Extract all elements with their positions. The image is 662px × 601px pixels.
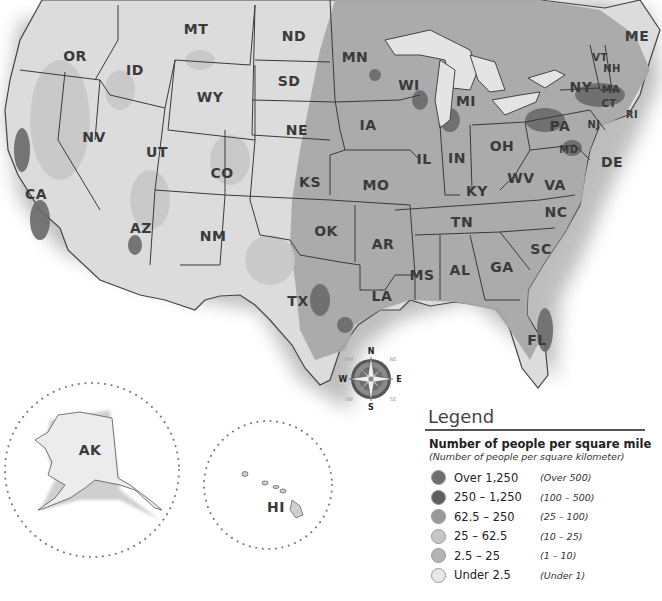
state-label-nh: NH [603, 63, 621, 74]
state-label-ct: CT [601, 98, 616, 109]
state-label-ga: GA [490, 259, 513, 275]
state-label-sc: SC [530, 241, 551, 257]
state-label-al: AL [450, 262, 471, 278]
state-label-md: MD [559, 144, 578, 155]
legend-item-label: Over 1,250 [454, 471, 540, 485]
legend-item: 2.5 – 25 (1 – 10) [431, 546, 657, 566]
compass-ne-label: NE [390, 356, 397, 362]
legend-items: Over 1,250 (Over 500) 250 – 1,250 (100 –… [425, 468, 657, 585]
legend-title: Legend [425, 402, 657, 429]
state-label-co: CO [210, 165, 233, 181]
state-label-pa: PA [550, 118, 571, 134]
state-label-ks: KS [299, 174, 321, 190]
state-label-hi: HI [267, 499, 285, 515]
compass-sw-label: SW [345, 396, 353, 402]
state-label-il: IL [416, 151, 431, 167]
state-label-mn: MN [342, 49, 369, 65]
legend-item-label: Under 2.5 [454, 568, 540, 582]
legend-item-metric: (10 – 25) [540, 531, 582, 542]
legend-subtitle-metric: (Number of people per square kilometer) [429, 451, 657, 462]
state-label-nj: NJ [587, 119, 600, 130]
state-label-in: IN [448, 150, 466, 166]
compass-west-label: W [339, 375, 348, 384]
state-label-oh: OH [490, 138, 515, 154]
compass-south-label: S [368, 403, 374, 412]
legend-swatch-62-250 [431, 509, 446, 524]
state-label-fl: FL [527, 332, 546, 348]
legend-item-label: 2.5 – 25 [454, 549, 540, 563]
state-label-nc: NC [545, 204, 568, 220]
legend-item-label: 62.5 – 250 [454, 510, 540, 524]
hawaii-inset-circle [204, 421, 332, 549]
state-label-sd: SD [278, 73, 301, 89]
legend-item: 250 – 1,250 (100 – 500) [431, 488, 657, 508]
state-label-wv: WV [507, 170, 534, 186]
legend-item: Under 2.5 (Under 1) [431, 566, 657, 586]
state-label-vt: VT [592, 52, 608, 63]
legend-subtitle: Number of people per square mile [429, 437, 657, 451]
compass-nw-label: NW [345, 356, 354, 362]
legend-swatch-over-1250 [431, 470, 446, 485]
legend: Legend Number of people per square mile … [425, 402, 657, 585]
legend-item: 25 – 62.5 (10 – 25) [431, 527, 657, 547]
legend-item-metric: (1 – 10) [540, 550, 576, 561]
legend-swatch-2-25 [431, 548, 446, 563]
state-label-ia: IA [359, 117, 376, 133]
state-label-tn: TN [451, 214, 473, 230]
state-label-nm: NM [200, 228, 227, 244]
state-label-mo: MO [363, 177, 390, 193]
state-label-ri: RI [626, 109, 638, 120]
legend-item-metric: (Under 1) [540, 570, 585, 581]
state-label-ky: KY [466, 183, 488, 199]
state-label-nv: NV [82, 129, 106, 145]
legend-item-metric: (100 – 500) [540, 492, 594, 503]
legend-item-metric: (25 – 100) [540, 511, 588, 522]
compass-north-label: N [368, 347, 375, 356]
compass-se-label: SE [390, 396, 396, 402]
state-label-ca: CA [25, 186, 47, 202]
state-label-az: AZ [130, 220, 152, 236]
state-label-nd: ND [282, 28, 306, 44]
legend-item-metric: (Over 500) [540, 472, 591, 483]
state-label-ne: NE [286, 122, 308, 138]
state-label-ar: AR [372, 236, 395, 252]
state-label-ak: AK [79, 442, 102, 458]
legend-item-label: 250 – 1,250 [454, 490, 540, 504]
state-label-wi: WI [398, 77, 420, 93]
legend-item: Over 1,250 (Over 500) [431, 468, 657, 488]
state-label-de: DE [601, 154, 623, 170]
state-label-or: OR [63, 48, 87, 64]
legend-swatch-250-1250 [431, 490, 446, 505]
compass-east-label: E [396, 375, 401, 384]
state-label-ny: NY [570, 79, 593, 95]
state-label-va: VA [544, 177, 566, 193]
state-label-ok: OK [314, 223, 338, 239]
state-label-mt: MT [184, 21, 208, 37]
state-label-la: LA [372, 288, 393, 304]
legend-swatch-under-2 [431, 568, 446, 583]
state-label-tx: TX [287, 293, 308, 309]
state-label-id: ID [126, 62, 144, 78]
state-label-ms: MS [409, 267, 434, 283]
legend-swatch-25-62 [431, 529, 446, 544]
legend-divider [425, 429, 645, 431]
state-label-me: ME [625, 28, 650, 44]
legend-item: 62.5 – 250 (25 – 100) [431, 507, 657, 527]
legend-item-label: 25 – 62.5 [454, 529, 540, 543]
state-label-wy: WY [197, 89, 224, 105]
state-label-mi: MI [456, 93, 476, 109]
state-label-ma: MA [602, 84, 621, 95]
state-label-ut: UT [146, 144, 168, 160]
